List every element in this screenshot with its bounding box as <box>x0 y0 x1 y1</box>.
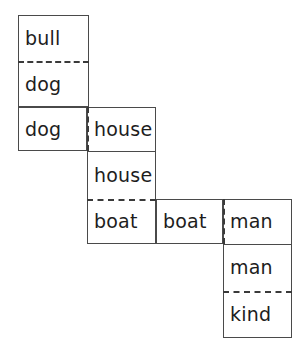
cell-label-man-1: man <box>223 199 292 244</box>
cell-label-house-2: house <box>87 151 156 199</box>
cell-label-dog-1: dog <box>18 61 89 107</box>
cell-label-bull: bull <box>18 15 89 61</box>
cell-label-man-2: man <box>223 244 292 291</box>
cell-label-boat-2: boat <box>156 199 223 244</box>
cell-label-boat-1: boat <box>87 199 156 244</box>
cell-label-kind: kind <box>223 291 292 338</box>
alignment-diagram: bull dog dog house house boat boat man m… <box>0 0 305 351</box>
cell-label-dog-2: dog <box>18 107 87 151</box>
cell-label-house-1: house <box>87 107 156 151</box>
